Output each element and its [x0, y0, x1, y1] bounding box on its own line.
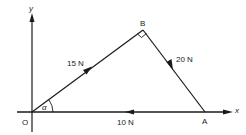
right-angle-marker-icon	[138, 34, 147, 38]
y-axis-label: y	[28, 4, 34, 13]
angle-arc-icon	[49, 100, 53, 112]
force-OB	[32, 30, 143, 112]
point-A-label: A	[202, 117, 208, 126]
x-axis-label: x	[234, 106, 240, 115]
force-AO-label: 10 N	[117, 118, 134, 127]
x-axis-arrow-icon	[223, 110, 233, 115]
force-BA-label: 20 N	[176, 55, 193, 64]
force-AO-arrow-icon	[125, 110, 134, 115]
force-BA-arrow-icon	[167, 59, 174, 70]
angle-alpha-label: α	[42, 103, 47, 112]
force-OB-label: 15 N	[67, 59, 84, 68]
origin-label: O	[22, 118, 28, 127]
force-triangle-diagram: y x O 15 N 20 N 10 N B A α	[0, 0, 246, 135]
force-BA	[143, 30, 205, 112]
point-B-label: B	[140, 19, 145, 28]
y-axis	[30, 13, 35, 132]
y-axis-arrow-icon	[30, 13, 35, 22]
